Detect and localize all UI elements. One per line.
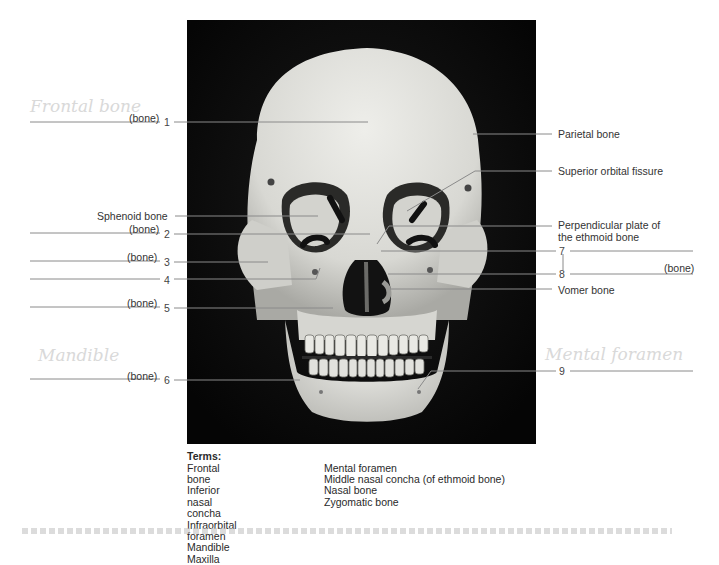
label-number-3: 3 <box>164 256 170 268</box>
label-number-6: 6 <box>164 374 170 386</box>
term-item: Nasal bone <box>324 485 505 496</box>
term-item: Maxilla <box>187 554 237 565</box>
term-item: Frontal bone <box>187 463 237 486</box>
label-superior-orbital-fissure: Superior orbital fissure <box>558 165 663 177</box>
label-number-7: 7 <box>559 245 565 257</box>
term-item: Inferior nasal concha <box>187 485 237 519</box>
pointer-superior-orbital-fissure <box>407 171 552 211</box>
label-sphenoid-bone: Sphenoid bone <box>97 210 168 222</box>
label-number-4: 4 <box>164 274 170 286</box>
label-number-5: 5 <box>164 302 170 314</box>
blank-hint-8: (bone) <box>664 262 694 274</box>
label-vomer-bone: Vomer bone <box>558 284 615 296</box>
blank-hint-1: (bone) <box>129 112 159 124</box>
label-perpendicular-plate-line1: Perpendicular plate of <box>558 219 660 231</box>
terms-column-1: Frontal bone Inferior nasal concha Infra… <box>187 463 237 565</box>
blank-hint-3: (bone) <box>127 251 157 263</box>
label-number-2: 2 <box>164 228 170 240</box>
pointer-perpendicular-plate <box>377 226 552 244</box>
blank-hint-6: (bone) <box>127 370 157 382</box>
blank-hint-2: (bone) <box>129 223 159 235</box>
pointer-9 <box>418 371 556 389</box>
label-number-1: 1 <box>164 116 170 128</box>
terms-column-2: Mental foramen Middle nasal concha (of e… <box>324 463 505 509</box>
terms-heading: Terms: <box>187 451 221 462</box>
pointer-4 <box>174 268 320 279</box>
terms-list: Terms: Frontal bone Inferior nasal conch… <box>187 451 221 462</box>
label-number-8: 8 <box>559 268 565 280</box>
figure-caption-truncated <box>22 528 672 534</box>
label-parietal-bone: Parietal bone <box>558 128 620 140</box>
label-number-9: 9 <box>559 365 565 377</box>
blank-hint-5: (bone) <box>127 297 157 309</box>
term-item: Zygomatic bone <box>324 497 505 508</box>
label-perpendicular-plate-line2: the ethmoid bone <box>558 231 639 243</box>
